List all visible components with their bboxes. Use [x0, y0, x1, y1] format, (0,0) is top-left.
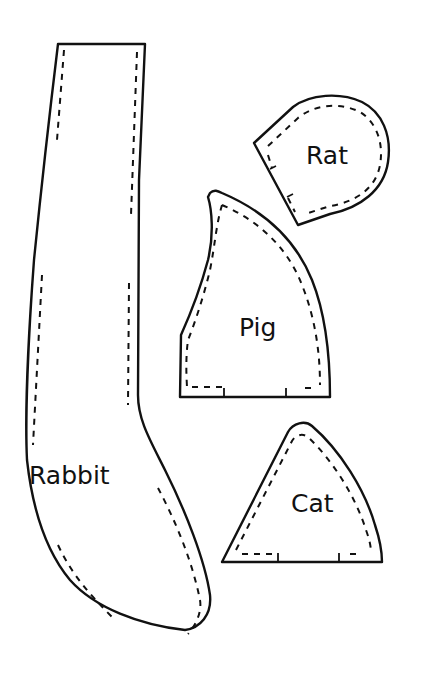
rabbit-outline [26, 44, 210, 630]
rat-seam-left [268, 155, 272, 168]
rabbit-seam-right-mid [128, 283, 129, 405]
rat-label: Rat [306, 141, 348, 170]
rat-piece: Rat [254, 96, 389, 225]
rabbit-seam-right-upper [131, 52, 137, 215]
rabbit-seam-left-upper [57, 50, 64, 140]
pattern-sheet: Rabbit Rat Pig Cat [0, 0, 421, 683]
rabbit-seam-left-lower [58, 545, 115, 620]
cat-piece: Cat [222, 423, 382, 562]
rabbit-seam-left-mid [33, 275, 42, 445]
cat-label: Cat [291, 489, 334, 518]
rat-notch-2 [287, 194, 293, 197]
rabbit-seam-right-lower [158, 488, 200, 634]
pig-seam [186, 205, 320, 388]
pig-label: Pig [239, 313, 276, 342]
rabbit-piece: Rabbit [26, 44, 210, 634]
rabbit-label: Rabbit [29, 461, 110, 490]
